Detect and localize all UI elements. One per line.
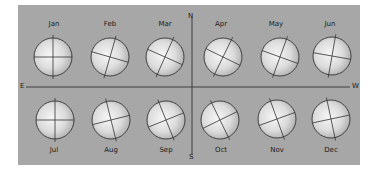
month-label-jan: Jan (49, 21, 60, 28)
globe-jan (34, 35, 72, 79)
globe-nov (258, 98, 296, 139)
month-label-apr: Apr (215, 21, 227, 28)
globe-mar (146, 37, 184, 77)
globe-jul (36, 98, 74, 142)
west-label: W (352, 83, 359, 90)
globe-sep (147, 100, 185, 141)
month-label-jul: Jul (50, 147, 58, 154)
globe-jun (313, 34, 351, 77)
globe-may (261, 36, 299, 77)
month-label-aug: Aug (104, 147, 118, 154)
south-label: S (189, 154, 193, 161)
month-label-feb: Feb (104, 21, 116, 28)
month-label-nov: Nov (270, 147, 284, 154)
globe-apr (204, 37, 242, 77)
globe-oct (201, 100, 239, 140)
north-label: N (188, 13, 193, 20)
globe-feb (91, 36, 129, 78)
month-label-jun: Jun (325, 21, 336, 28)
month-label-may: May (269, 21, 283, 28)
month-label-mar: Mar (158, 21, 171, 28)
month-label-dec: Dec (324, 147, 338, 154)
month-label-oct: Oct (215, 147, 227, 154)
globe-aug (92, 99, 130, 142)
globes-group (34, 34, 351, 142)
month-label-sep: Sep (159, 147, 172, 154)
globe-dec (312, 97, 350, 140)
east-label: E (20, 83, 24, 90)
